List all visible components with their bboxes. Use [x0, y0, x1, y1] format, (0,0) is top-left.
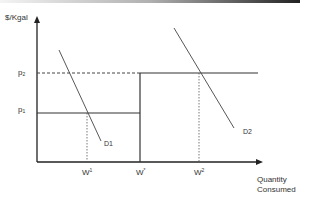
chart-canvas — [0, 0, 311, 202]
p1-tick-label: p1 — [18, 106, 25, 114]
y-axis-arrow-icon — [34, 16, 40, 23]
wstar-tick-label: W* — [136, 168, 146, 177]
d1-label: D1 — [104, 140, 113, 147]
top-gradient-bar — [0, 0, 300, 3]
x-axis-label: Quantity Consumed — [257, 175, 296, 195]
d2-label: D2 — [243, 128, 252, 135]
y-axis-label: $/Kgal — [5, 14, 28, 22]
d1-demand-line — [59, 50, 101, 141]
w1-tick-label: W1 — [82, 168, 92, 177]
w2-tick-label: W2 — [194, 168, 204, 177]
p2-tick-label: p2 — [18, 69, 25, 77]
d2-demand-line — [174, 28, 234, 128]
x-axis-arrow-icon — [256, 159, 263, 165]
